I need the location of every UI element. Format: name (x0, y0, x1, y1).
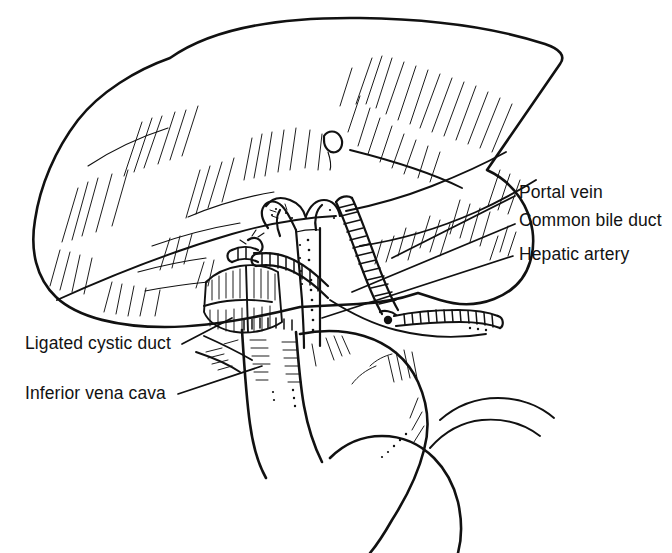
falciform-notch (324, 132, 342, 171)
anatomical-figure: Portal vein Common bile duct Hepatic art… (0, 0, 672, 553)
ivc-hatching (250, 340, 301, 382)
label-ligated-cystic-duct: Ligated cystic duct (25, 335, 171, 353)
ligated-cystic-duct (228, 230, 265, 262)
liver-outline (33, 18, 562, 327)
ivc-cut-edge-ticks (244, 318, 292, 330)
portal-vein (262, 198, 340, 348)
liver-inferior-border (57, 152, 536, 300)
label-hepatic-artery: Hepatic artery (519, 246, 629, 264)
label-portal-vein: Portal vein (519, 184, 603, 202)
duodenum (300, 331, 554, 553)
hepatic-artery-ligature-knot (384, 316, 392, 324)
anatomy-line-drawing (0, 0, 672, 553)
retroperitoneal-hatching (312, 336, 350, 366)
label-inferior-vena-cava: Inferior vena cava (25, 385, 166, 403)
hepatic-artery-stipple (469, 327, 487, 331)
label-common-bile-duct: Common bile duct (519, 212, 662, 230)
duodenum-fold-lines (352, 354, 392, 384)
ivc-stipple (272, 389, 296, 407)
